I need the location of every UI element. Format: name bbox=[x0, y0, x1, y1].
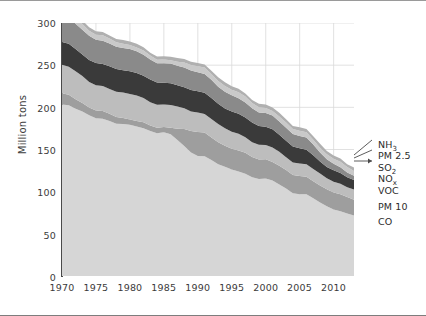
y-tick-50: 50 bbox=[4, 229, 56, 240]
x-tick-2010: 2010 bbox=[314, 282, 354, 293]
y-tick-150: 150 bbox=[4, 145, 56, 156]
legend-label-nh3-base: NH bbox=[378, 139, 392, 150]
legend-item-nh3[interactable]: NH3 bbox=[378, 139, 426, 150]
legend-label-co: CO bbox=[378, 216, 392, 227]
y-axis-title: Million tons bbox=[17, 65, 28, 185]
legend-item-voc[interactable]: VOC bbox=[378, 185, 426, 196]
chart-frame: 300 250 200 150 100 50 0 Million tons 19… bbox=[0, 0, 426, 316]
legend-label-nox-base: NO bbox=[378, 173, 393, 184]
legend-item-co[interactable]: CO bbox=[378, 216, 426, 227]
legend-label-so2-base: SO bbox=[378, 162, 392, 173]
legend-item-pm25[interactable]: PM 2.5 bbox=[378, 150, 426, 161]
legend: NH3 PM 2.5 SO2 NOx VOC PM 10 CO bbox=[378, 139, 426, 228]
y-tick-100: 100 bbox=[4, 187, 56, 198]
legend-item-pm10[interactable]: PM 10 bbox=[378, 201, 426, 212]
area-series-group bbox=[62, 23, 354, 276]
y-tick-0: 0 bbox=[4, 272, 56, 283]
y-axis: 300 250 200 150 100 50 0 Million tons bbox=[0, 1, 56, 316]
y-tick-200: 200 bbox=[4, 102, 56, 113]
plot-area bbox=[62, 23, 354, 276]
legend-label-pm25: PM 2.5 bbox=[378, 150, 411, 161]
stacked-area-svg bbox=[62, 23, 354, 276]
legend-item-so2[interactable]: SO2 bbox=[378, 162, 426, 173]
legend-label-voc: VOC bbox=[378, 185, 399, 196]
y-tick-250: 250 bbox=[4, 60, 56, 71]
legend-item-nox[interactable]: NOx bbox=[378, 173, 426, 184]
y-tick-300: 300 bbox=[4, 18, 56, 29]
legend-label-pm10: PM 10 bbox=[378, 201, 408, 212]
